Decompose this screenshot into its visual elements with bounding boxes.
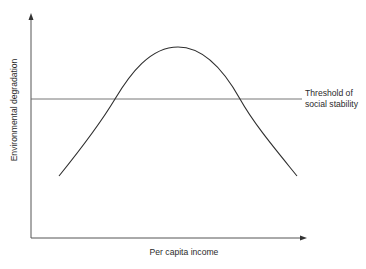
y-axis — [29, 13, 34, 238]
y-axis-label: Environmental degradation — [9, 58, 19, 161]
threshold-label-line2: social stability — [305, 99, 359, 109]
x-axis — [31, 236, 307, 241]
y-axis-arrow-icon — [29, 13, 34, 20]
diagram: Threshold of social stability Per capita… — [0, 0, 366, 269]
x-axis-label: Per capita income — [150, 247, 219, 257]
threshold-label-line1: Threshold of — [305, 88, 353, 98]
degradation-curve — [59, 47, 297, 176]
x-axis-arrow-icon — [300, 236, 307, 241]
